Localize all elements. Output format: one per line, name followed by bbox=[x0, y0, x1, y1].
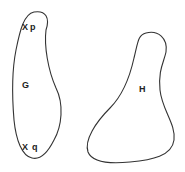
point-q-marker: X bbox=[22, 142, 28, 152]
region-g-outline bbox=[13, 12, 61, 159]
point-p-label: p bbox=[30, 22, 36, 32]
point-p-marker: X bbox=[22, 22, 28, 32]
diagram-canvas: X p G X q H bbox=[0, 0, 185, 172]
region-h-label: H bbox=[139, 84, 146, 94]
region-h-outline bbox=[87, 32, 174, 162]
point-q-label: q bbox=[32, 142, 38, 152]
region-g-label: G bbox=[22, 80, 29, 90]
